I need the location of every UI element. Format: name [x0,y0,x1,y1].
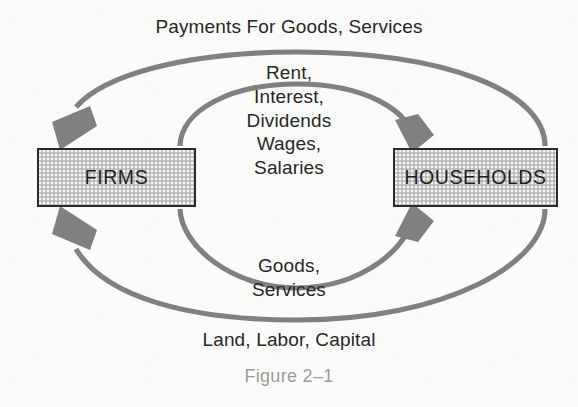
flow-label-income-line-3: Dividends [247,110,332,131]
flow-label-income: Rent, Interest, Dividends Wages, Salarie… [247,62,332,181]
flow-label-income-line-1: Rent, [247,62,332,83]
flow-label-resources: Land, Labor, Capital [0,329,578,350]
flow-label-payments: Payments For Goods, Services [0,16,578,37]
entity-label-households: HOUSEHOLDS [404,166,546,189]
arrowhead-goods-into-households [395,203,434,242]
flow-label-goods: Goods, Services [252,255,326,303]
flow-label-income-line-2: Interest, [247,86,332,107]
figure-caption: Figure 2–1 [0,366,578,387]
flow-label-income-line-4: Wages, [247,133,332,154]
flow-label-goods-line-1: Goods, [252,255,326,276]
arrowhead-payments-into-firms [52,106,97,150]
figure-canvas: FIRMS HOUSEHOLDS Payments For Goods, Ser… [0,0,578,407]
entity-box-households[interactable]: HOUSEHOLDS [393,148,558,207]
entity-label-firms: FIRMS [85,166,148,189]
entity-box-firms[interactable]: FIRMS [37,148,196,207]
arrowhead-resources-into-firms [52,206,97,250]
flow-label-goods-line-2: Services [252,279,326,300]
flow-label-income-line-5: Salaries [247,157,332,178]
